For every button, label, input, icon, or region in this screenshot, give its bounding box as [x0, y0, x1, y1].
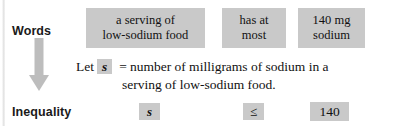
row-label-words: Words	[12, 24, 51, 38]
phrase-relation-line2: most	[242, 28, 266, 43]
row-label-inequality: Inequality	[12, 105, 71, 119]
definition-line2-text: serving of low-sodium food.	[76, 76, 400, 94]
phrase-box-relation: has at most	[222, 8, 286, 48]
definition-line1-text: number of milligrams of sodium in a	[130, 59, 329, 74]
page-edge-rule	[2, 0, 5, 126]
inequality-variable: s	[139, 103, 160, 120]
definition-line1: Lets=number of milligrams of sodium in a	[76, 59, 329, 74]
inequality-constant: 140	[310, 102, 349, 121]
phrase-value-line2: sodium	[313, 28, 350, 43]
phrase-value-line1: 140 mg	[313, 13, 351, 28]
down-arrow-icon	[28, 38, 50, 92]
phrase-subject-line2: low-sodium food	[103, 28, 189, 43]
phrase-box-subject: a serving of low-sodium food	[86, 8, 205, 48]
phrase-subject-line1: a serving of	[116, 13, 175, 28]
variable-definition: Lets=number of milligrams of sodium in a…	[76, 58, 400, 94]
phrase-relation-line1: has at	[240, 13, 269, 28]
definition-variable-chip: s	[97, 59, 112, 74]
definition-lead: Let	[76, 59, 94, 74]
inequality-operator-icon: ≤	[243, 103, 264, 120]
inequality-translation-diagram: Words a serving of low-sodium food has a…	[0, 0, 400, 126]
definition-equals: =	[119, 59, 127, 74]
phrase-box-value: 140 mg sodium	[298, 8, 365, 48]
